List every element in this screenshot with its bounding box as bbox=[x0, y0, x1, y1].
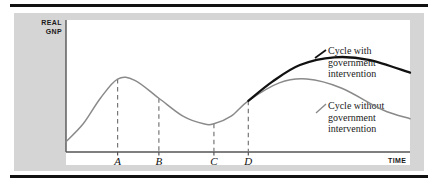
curve-without-intervention bbox=[66, 77, 410, 141]
curve-with-intervention bbox=[248, 57, 410, 101]
axes-group bbox=[66, 20, 410, 152]
leader-line-with-intervention bbox=[315, 50, 326, 58]
figure-container: REAL GNP TIME A B C D Cycle with governm… bbox=[0, 0, 438, 190]
chart-svg bbox=[0, 0, 438, 190]
leader-line-without-intervention bbox=[316, 104, 326, 113]
